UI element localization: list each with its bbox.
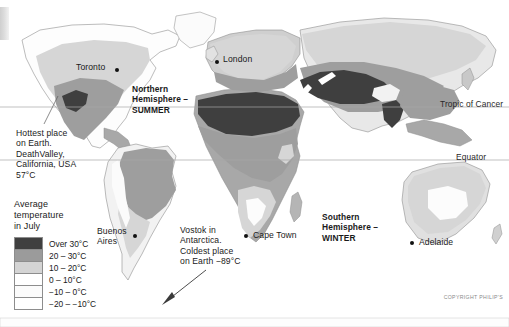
landmass-new-zealand [492,224,502,244]
legend-row: 10 – 20°C [15,262,98,274]
legend-swatch-minus10-0 [15,286,43,298]
legend-label-minus10-0: −10 – 0°C [43,286,98,298]
city-label-cape-town: Cape Town [253,230,297,240]
city-dot-adelaide [410,241,414,245]
legend-swatch-10-20 [15,262,43,274]
landmass-antarctica [0,318,509,327]
city-label-buenos-aires: Buenos Aires [97,226,127,247]
legend-row: 20 – 30°C [15,250,98,262]
city-dot-toronto [115,68,119,72]
vostok-arrow-head [162,292,175,305]
legend: Over 30°C 20 – 30°C 10 – 20°C 0 – 10°C −… [14,237,98,310]
legend-swatch-minus20-minus10 [15,298,43,310]
legend-label-10-20: 10 – 20°C [43,262,98,274]
legend-row: −10 – 0°C [15,286,98,298]
legend-swatch-20-30 [15,250,43,262]
legend-row: −20 – −10°C [15,298,98,310]
equator-label: Equator [456,152,486,162]
northern-hemisphere-summer-label: Northern Hemisphere – SUMMER [132,84,188,115]
legend-row: Over 30°C [15,238,98,250]
southern-hemisphere-winter-label: Southern Hemisphere – WINTER [322,212,378,243]
copyright-notice: COPYRIGHT PHILIP'S [444,294,503,300]
legend-table: Over 30°C 20 – 30°C 10 – 20°C 0 – 10°C −… [14,237,98,310]
legend-label-over-30: Over 30°C [43,238,98,250]
landmass-southeast-asia [406,120,472,146]
hottest-place-annotation: Hottest place on Earth. DeathValley, Cal… [16,128,76,180]
city-label-adelaide: Adelaide [419,237,453,247]
legend-swatch-over-30 [15,238,43,250]
city-dot-london [215,60,219,64]
landmass-madagascar [290,192,302,222]
city-dot-buenos-aires [133,234,137,238]
city-label-toronto: Toronto [76,62,105,72]
coldest-place-annotation: Vostok in Antarctica. Coldest place on E… [180,225,241,267]
world-temperature-map: Tropic of Cancer Equator Northern Hemisp… [0,0,509,327]
city-label-london: London [223,54,252,64]
legend-row: 0 – 10°C [15,274,98,286]
legend-label-20-30: 20 – 30°C [43,250,98,262]
legend-title: Average temperature in July [14,199,64,232]
tropic-of-cancer-label: Tropic of Cancer [440,99,503,109]
legend-swatch-0-10 [15,274,43,286]
city-dot-cape-town [244,234,248,238]
legend-label-0-10: 0 – 10°C [43,274,98,286]
legend-label-minus20-minus10: −20 – −10°C [43,298,98,310]
